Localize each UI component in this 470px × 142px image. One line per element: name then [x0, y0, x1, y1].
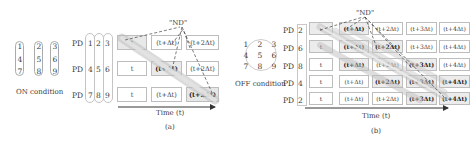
motion-smear-b — [320, 27, 445, 100]
